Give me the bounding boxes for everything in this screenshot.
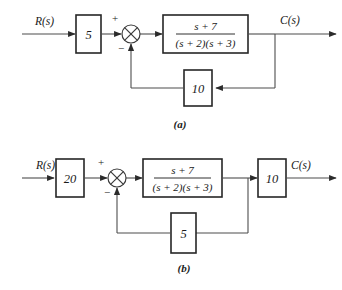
summer-plus-sign-a: + (112, 12, 118, 24)
gain-block-a-label: 5 (85, 28, 91, 42)
output-gain-block-b-label: 10 (266, 172, 279, 186)
feedback-block-a-label: 10 (192, 82, 205, 96)
plant-denominator-a: (s + 2)(s + 3) (175, 37, 235, 50)
figure-canvas: R(s) 5 + − s + 7 (s + 2)(s + 3) C(s) 10 (0, 0, 342, 290)
summer-plus-sign-b: + (98, 156, 104, 168)
subfigure-a: R(s) 5 + − s + 7 (s + 2)(s + 3) C(s) 10 (22, 12, 336, 131)
subfigure-b: R(s) 20 + − s + 7 (s + 2)(s + 3) 10 C(s) (22, 156, 336, 275)
plant-denominator-b: (s + 2)(s + 3) (152, 181, 212, 194)
feedback-block-b-label: 5 (180, 227, 186, 241)
output-label-a: C(s) (280, 14, 300, 27)
caption-b: (b) (178, 262, 191, 275)
gain-block-b-label: 20 (64, 172, 77, 186)
summer-minus-sign-a: − (118, 42, 124, 54)
summing-junction-b (108, 169, 126, 187)
caption-a: (a) (174, 118, 187, 131)
input-label-a: R(s) (34, 15, 54, 28)
summing-junction-a (122, 25, 140, 43)
input-label-b: R(s) (35, 159, 55, 172)
summer-minus-sign-b: − (104, 186, 110, 198)
output-label-b: C(s) (291, 159, 311, 172)
plant-numerator-a: s + 7 (194, 20, 217, 32)
plant-numerator-b: s + 7 (171, 164, 194, 176)
